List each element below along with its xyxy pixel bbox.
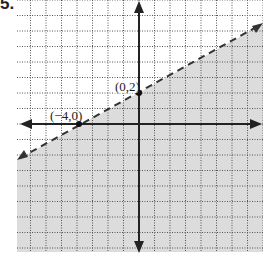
point-label-0-2: (0,2): [115, 79, 140, 94]
x-axis-left-arrow-icon: [20, 119, 32, 129]
y-axis-top-arrow-icon: [134, 1, 144, 13]
point-label-neg4-0: (−4,0): [50, 108, 82, 123]
coordinate-graph: (0,2) (−4,0): [0, 0, 263, 256]
